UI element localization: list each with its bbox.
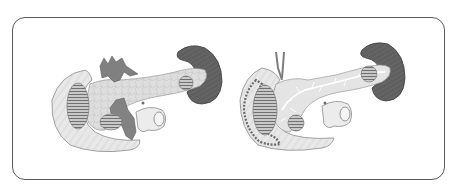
hatched-lesion-duodenum-left <box>67 83 89 129</box>
hatched-lesion-tail-right <box>361 66 377 82</box>
left-panel <box>52 46 222 152</box>
vessel-right <box>282 52 284 78</box>
jejunum-opening-right <box>340 107 350 121</box>
hatched-lesion-tail-left <box>179 76 193 90</box>
hatched-lesion-head-left <box>100 114 122 130</box>
vessels-left <box>100 56 138 82</box>
hatched-lesion-head-right <box>288 115 304 131</box>
pancreas-illustration <box>0 0 455 186</box>
hatched-lesion-duodenum-right <box>253 85 277 135</box>
jejunum-opening-left <box>154 112 164 126</box>
right-panel <box>240 43 405 151</box>
